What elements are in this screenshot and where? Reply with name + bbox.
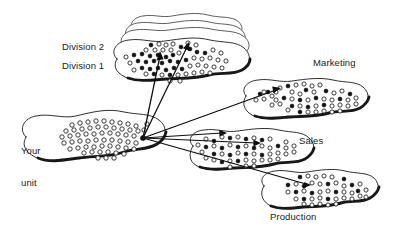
label-your-unit-line-1: Your <box>21 146 41 157</box>
label-your-unit-line-2: unit <box>21 178 41 189</box>
diagram-canvas <box>0 0 405 249</box>
label-marketing: Marketing <box>313 58 356 69</box>
hub-node[interactable] <box>140 135 145 140</box>
label-division-2: Division 2 <box>62 42 104 53</box>
label-production: Production <box>270 212 316 223</box>
unit-blob-division-1 <box>114 38 250 80</box>
label-your-unit: Your unit <box>21 125 41 210</box>
label-division-1: Division 1 <box>62 61 104 72</box>
network-diagram: Division 2 Division 1 Marketing Sales Pr… <box>0 0 405 249</box>
label-sales: Sales <box>299 136 323 147</box>
